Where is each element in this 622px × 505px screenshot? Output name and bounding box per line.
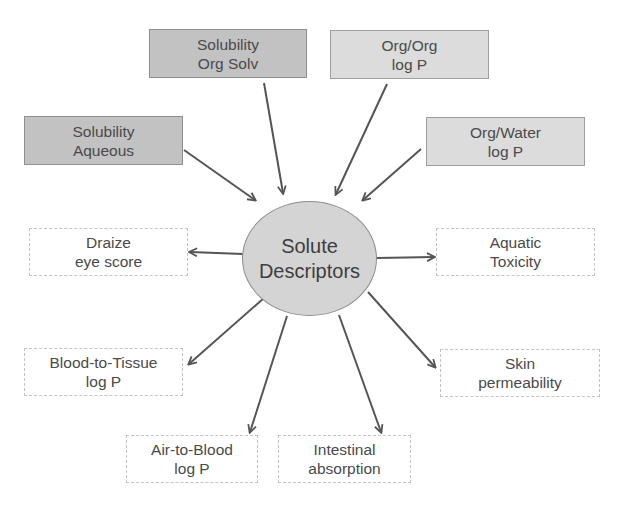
arrow-skin <box>368 292 435 367</box>
output-skin-permeability: Skin permeability <box>440 349 600 397</box>
label-line1: Org/Water <box>470 123 541 142</box>
output-air-to-blood-log-p: Air-to-Blood log P <box>126 435 258 483</box>
label-line2: log P <box>392 55 427 74</box>
label-line1: Org/Org <box>382 36 438 55</box>
label-line2: eye score <box>75 252 142 271</box>
label-line2: Toxicity <box>490 252 541 271</box>
output-aquatic-toxicity: Aquatic Toxicity <box>436 228 595 276</box>
label-line2: Aqueous <box>73 141 134 160</box>
label-line1: Skin <box>505 354 535 373</box>
arrow-org-org <box>336 84 387 194</box>
arrow-solubility-aqueous <box>184 150 255 200</box>
label-line2: log P <box>86 372 121 391</box>
label-line2: log P <box>488 142 523 161</box>
arrow-solubility-org-solv <box>264 83 283 193</box>
solute-descriptors-node: Solute Descriptors <box>242 201 377 316</box>
input-org-water-log-p: Org/Water log P <box>426 117 585 166</box>
label-line1: Solubility <box>72 122 134 141</box>
solute-descriptors-diagram: Solute Descriptors Solubility Org Solv O… <box>0 0 622 505</box>
arrow-blood-to-tissue <box>189 298 264 364</box>
output-intestinal-absorption: Intestinal absorption <box>278 435 411 483</box>
label-line1: Air-to-Blood <box>151 440 233 459</box>
arrow-intestinal <box>339 315 381 432</box>
arrow-aquatic <box>377 257 434 258</box>
label-line2: Org Solv <box>198 54 258 73</box>
label-line1: Solubility <box>197 35 259 54</box>
label-line1: Aquatic <box>490 233 542 252</box>
label-line1: Draize <box>86 233 131 252</box>
arrow-org-water <box>363 149 421 200</box>
label-line2: permeability <box>478 373 562 392</box>
output-draize-eye-score: Draize eye score <box>29 228 188 276</box>
center-label-line2: Descriptors <box>259 259 360 284</box>
input-solubility-aqueous: Solubility Aqueous <box>24 116 183 165</box>
arrow-draize <box>190 252 243 254</box>
label-line1: Blood-to-Tissue <box>50 353 158 372</box>
output-blood-to-tissue-log-p: Blood-to-Tissue log P <box>24 348 183 396</box>
center-label-line1: Solute <box>281 234 338 259</box>
label-line2: log P <box>174 459 209 478</box>
input-solubility-org-solv: Solubility Org Solv <box>149 29 307 78</box>
label-line1: Intestinal <box>313 440 375 459</box>
input-org-org-log-p: Org/Org log P <box>330 30 489 79</box>
arrow-air-to-blood <box>250 316 287 432</box>
label-line2: absorption <box>308 459 380 478</box>
